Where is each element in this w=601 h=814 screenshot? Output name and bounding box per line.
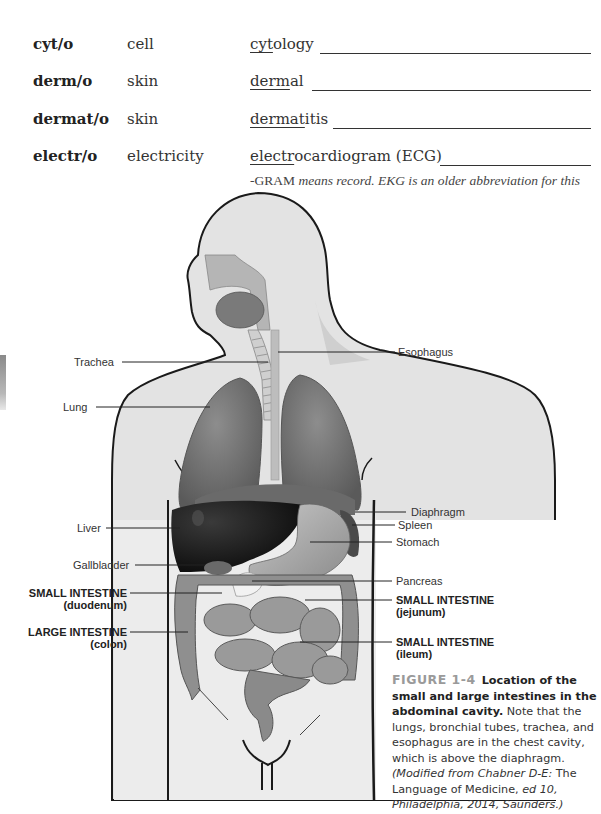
label-diaphragm: Diaphragm [411,506,465,518]
term-meaning: cell [127,35,154,53]
term-row-cyto: cyt/o cell cytology [0,35,601,59]
term-meaning: electricity [127,147,204,165]
term-root: cyt/o [33,35,73,53]
term-example-root: electr [250,147,294,165]
term-row-dermato: dermat/o skin dermatitis [0,110,601,134]
label-small-intestine-jejunum: SMALL INTESTINE (jejunum) [396,594,494,618]
figure-number: FIGURE 1-4 [392,672,476,687]
answer-blank-line[interactable] [333,128,591,129]
label-pancreas: Pancreas [396,575,442,587]
label-line-2: (duodenum) [0,599,127,611]
term-root: derm/o [33,72,92,90]
label-trachea: Trachea [74,356,114,368]
label-esophagus: Esophagus [398,346,453,358]
term-example-rest: ocardiogram (ECG) [294,147,442,165]
label-large-intestine: LARGE INTESTINE (colon) [0,626,127,650]
term-example: dermal [250,72,304,90]
label-spleen: Spleen [398,519,432,531]
term-meaning: skin [127,110,158,128]
term-example: cytology [250,35,314,53]
term-example-rest: al [290,72,304,90]
term-row-dermo: derm/o skin dermal [0,72,601,96]
answer-blank-line[interactable] [312,90,591,91]
label-gallbladder: Gallbladder [73,559,129,571]
textbook-page: cyt/o cell cytology derm/o skin dermal d… [0,0,601,814]
figure-source-1: (Modified from Chabner D-E: [392,767,552,780]
figure-caption: FIGURE 1-4Location of the small and larg… [392,672,598,813]
label-line-2: (ileum) [396,648,494,660]
label-line-2: (jejunum) [396,606,494,618]
esophagus-shape [271,330,279,480]
label-line-2: (colon) [0,638,127,650]
label-liver: Liver [77,522,101,534]
tongue [216,292,264,328]
label-small-intestine-duodenum: SMALL INTESTINE (duodenum) [0,587,127,611]
term-example-rest: ology [273,35,314,53]
term-example-rest: itis [305,110,328,128]
label-line-1: SMALL INTESTINE [0,587,127,599]
term-meaning: skin [127,72,158,90]
answer-blank-line[interactable] [440,165,591,166]
label-line-1: SMALL INTESTINE [396,636,494,648]
term-example-root: derm [250,72,290,90]
term-root: dermat/o [33,110,109,128]
gallbladder-shape [204,561,232,575]
term-example: electrocardiogram (ECG) [250,147,442,165]
term-example: dermatitis [250,110,328,128]
label-line-1: LARGE INTESTINE [0,626,127,638]
label-lung: Lung [63,401,87,413]
label-stomach: Stomach [396,536,439,548]
answer-blank-line[interactable] [320,53,591,54]
term-example-root: cyt [250,35,273,53]
term-row-electro: electr/o electricity electrocardiogram (… [0,147,601,171]
label-small-intestine-ileum: SMALL INTESTINE (ileum) [396,636,494,660]
term-root: electr/o [33,147,97,165]
label-line-1: SMALL INTESTINE [396,594,494,606]
term-example-root: dermat [250,110,305,128]
